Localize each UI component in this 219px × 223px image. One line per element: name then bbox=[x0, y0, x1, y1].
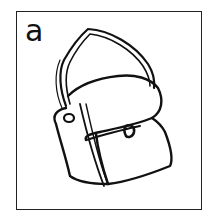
bag-icon bbox=[0, 0, 219, 223]
